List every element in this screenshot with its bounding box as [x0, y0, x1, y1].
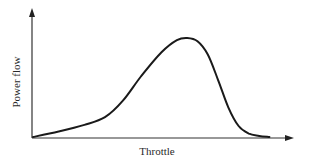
y-axis-arrow-icon — [29, 8, 35, 17]
x-axis-arrow-icon — [285, 135, 294, 141]
y-axis-label: Power flow — [10, 56, 22, 107]
power-flow-curve — [33, 38, 269, 137]
x-axis-label: Throttle — [139, 145, 175, 157]
power-flow-chart: Power flow Throttle — [0, 0, 309, 161]
